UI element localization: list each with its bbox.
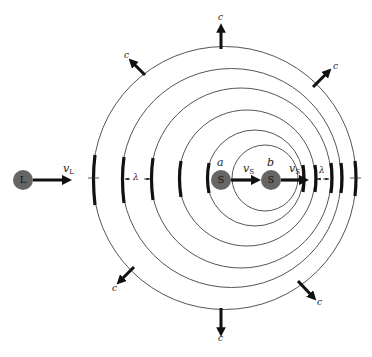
listener-velocity-label: vL (63, 163, 74, 176)
wavelength-label-right: λ (319, 166, 325, 175)
wave-speed-label-bottom-right: c (317, 298, 322, 307)
arrow-up-left (132, 62, 145, 75)
source-velocity-label-b: vS (289, 163, 300, 176)
doppler-diagram: L S S a b vL vS vS λ λ c c c c c c (0, 0, 372, 357)
source-label-b: S (261, 170, 281, 190)
arrow-down-left (120, 267, 134, 281)
position-label-b: b (267, 157, 274, 168)
wave-speed-label-bottom: c (218, 334, 223, 343)
source-velocity-label-a: vS (243, 163, 254, 176)
source-label-a: S (211, 170, 231, 190)
arrow-down-right (298, 281, 313, 297)
crest-marks-right (303, 161, 356, 196)
arrow-up-right (313, 72, 328, 87)
wave-speed-label-top-right: c (333, 62, 338, 71)
wave-speed-label-top: c (218, 13, 223, 22)
wavelength-label-left: λ (133, 173, 139, 182)
listener-label: L (13, 170, 33, 190)
wave-speed-label-top-left: c (124, 51, 129, 60)
wave-speed-label-bottom-left: c (112, 284, 117, 293)
crest-marks-left (94, 155, 210, 205)
position-label-a: a (217, 157, 224, 168)
